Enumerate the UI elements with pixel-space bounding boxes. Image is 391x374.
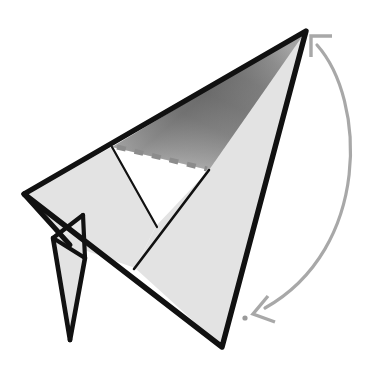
origami-diagram-canvas: Origami instruction diagram showing a pa…	[0, 0, 391, 374]
arrow-head-top	[311, 36, 332, 57]
origami-figure: Origami instruction diagram showing a pa…	[0, 0, 391, 374]
target-reference-dot	[242, 315, 247, 320]
